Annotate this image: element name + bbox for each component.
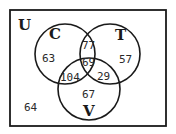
universe-label: U [18,16,31,34]
set-t-label: T [115,26,127,44]
region-c-only: 63 [42,52,55,65]
region-v-only: 67 [82,88,95,101]
region-c-t-v: 69 [82,56,95,69]
set-c-label: C [49,25,61,43]
venn-diagram: U C T V 63 57 67 77 104 29 69 64 [0,0,176,134]
region-c-and-t: 77 [82,39,95,52]
set-v-label: V [82,102,95,120]
region-t-and-v: 29 [97,70,110,83]
region-outside: 64 [24,101,38,114]
region-c-and-v: 104 [60,71,80,84]
region-t-only: 57 [119,53,132,66]
